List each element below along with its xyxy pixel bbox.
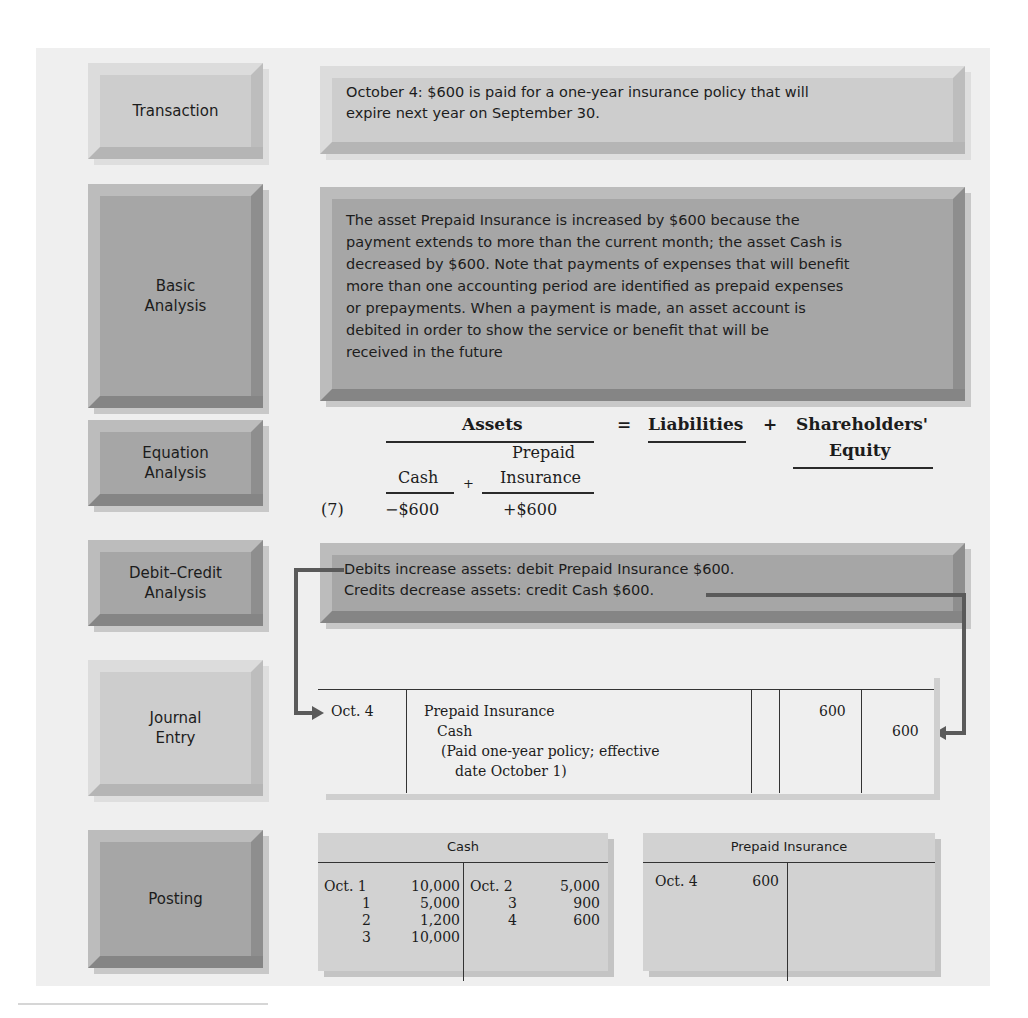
basic-analysis-line: decreased by $600. Note that payments of… — [346, 253, 850, 275]
footer-rule — [18, 1003, 268, 1005]
prepaid-underline — [482, 492, 594, 494]
equation-plus: + — [763, 414, 777, 434]
col-plus: + — [463, 476, 474, 491]
cash-t-account-title: Cash — [318, 839, 608, 854]
equation-equity-line2: Equity — [829, 440, 890, 460]
posting-label: Posting — [148, 889, 203, 909]
cash-debit-date: Oct. 1 — [324, 878, 367, 895]
prepaid-t-account-title: Prepaid Insurance — [643, 839, 935, 854]
prepaid-change: +$600 — [503, 500, 557, 519]
cash-credit-amount: 900 — [518, 895, 600, 912]
cash-debit-date: 1 — [362, 895, 371, 912]
transaction-label-box: Transaction — [88, 63, 263, 159]
debit-arrow-head-icon — [312, 706, 324, 720]
equation-assets: Assets — [462, 414, 523, 434]
journal-date: Oct. 4 — [331, 703, 374, 719]
journal-entry-label-line1: Journal — [150, 708, 202, 728]
journal-debit-amount: 600 — [819, 703, 846, 719]
debit-credit-label-line1: Debit–Credit — [129, 563, 222, 583]
cash-debit-amount: 10,000 — [374, 878, 460, 895]
basic-analysis-label-line2: Analysis — [145, 296, 207, 316]
equation-analysis-label-box: Equation Analysis — [88, 420, 263, 506]
basic-analysis-line: The asset Prepaid Insurance is increased… — [346, 209, 850, 231]
transaction-label: Transaction — [133, 101, 219, 121]
cash-credit-date: Oct. 2 — [470, 878, 513, 895]
prepaid-insurance-t-account: Prepaid Insurance Oct. 4 600 — [643, 833, 935, 971]
cash-credit-date: 3 — [508, 895, 517, 912]
journal-explanation-line1: (Paid one-year policy; effective — [441, 743, 660, 759]
cash-debit-date: 3 — [362, 929, 371, 946]
cash-debit-amount: 1,200 — [374, 912, 460, 929]
debit-rule-text: Debits increase assets: debit Prepaid In… — [344, 559, 734, 580]
basic-analysis-line: received in the future — [346, 341, 850, 363]
equation-analysis-label-line2: Analysis — [142, 463, 208, 483]
cash-change: −$600 — [385, 500, 439, 519]
credit-arrow-horizontal-top — [706, 593, 966, 597]
equity-underline — [793, 467, 933, 469]
equation-equity-line1: Shareholders' — [796, 414, 928, 434]
basic-analysis-label-line1: Basic — [145, 276, 207, 296]
cash-debit-date: 2 — [362, 912, 371, 929]
journal-debit-account: Prepaid Insurance — [424, 703, 555, 719]
equation-liabilities: Liabilities — [648, 414, 743, 434]
credit-rule-text: Credits decrease assets: credit Cash $60… — [344, 580, 734, 601]
basic-analysis-line: more than one accounting period are iden… — [346, 275, 850, 297]
debit-credit-label-box: Debit–Credit Analysis — [88, 540, 263, 626]
cash-credit-date: 4 — [508, 912, 517, 929]
journal-entry-label-box: Journal Entry — [88, 660, 263, 796]
credit-arrow-horizontal-bottom — [946, 731, 966, 735]
cash-debit-amount: 5,000 — [374, 895, 460, 912]
debit-arrow-horizontal-bottom — [294, 711, 314, 715]
equation-equals: = — [617, 414, 631, 434]
prepaid-debit-date: Oct. 4 — [655, 873, 698, 890]
debit-credit-label-line2: Analysis — [129, 583, 222, 603]
journal-credit-account: Cash — [437, 723, 472, 739]
transaction-text-line1: October 4: $600 is paid for a one-year i… — [346, 82, 809, 103]
debit-arrow-horizontal-top — [294, 568, 344, 572]
journal-explanation-line2: date October 1) — [455, 763, 567, 779]
debit-arrow-vertical — [294, 568, 298, 715]
basic-analysis-line: or prepayments. When a payment is made, … — [346, 297, 850, 319]
cash-credit-amount: 5,000 — [518, 878, 600, 895]
basic-analysis-line: debited in order to show the service or … — [346, 319, 850, 341]
transaction-text-box: October 4: $600 is paid for a one-year i… — [320, 66, 965, 154]
basic-analysis-line: payment extends to more than the current… — [346, 231, 850, 253]
liabilities-underline — [648, 441, 746, 443]
equation-analysis-label-line1: Equation — [142, 443, 208, 463]
posting-label-box: Posting — [88, 830, 263, 968]
cash-credit-amount: 600 — [518, 912, 600, 929]
journal-entry-label-line2: Entry — [150, 728, 202, 748]
debit-credit-text-box: Debits increase assets: debit Prepaid In… — [320, 543, 965, 623]
journal-credit-amount: 600 — [892, 723, 919, 739]
col-prepaid-line1: Prepaid — [512, 443, 575, 462]
cash-debit-amount: 10,000 — [374, 929, 460, 946]
transaction-text-line2: expire next year on September 30. — [346, 103, 809, 124]
entry-number: (7) — [321, 500, 344, 519]
cash-underline — [386, 492, 454, 494]
col-cash: Cash — [398, 468, 438, 487]
basic-analysis-text-box: The asset Prepaid Insurance is increased… — [320, 187, 965, 401]
cash-t-account: Cash Oct. 1 10,000 1 5,000 2 1,200 3 10,… — [318, 833, 608, 971]
credit-arrow-vertical — [962, 593, 966, 735]
prepaid-debit-amount: 600 — [713, 873, 779, 890]
col-prepaid-line2: Insurance — [500, 468, 581, 487]
basic-analysis-label-box: Basic Analysis — [88, 184, 263, 408]
